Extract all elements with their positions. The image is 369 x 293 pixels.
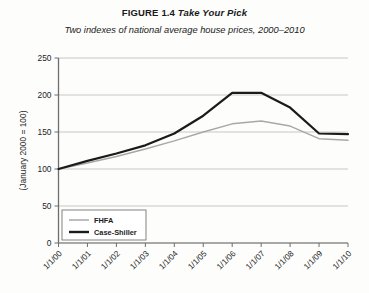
x-tick-label: 1/1/03 bbox=[128, 249, 151, 272]
x-tick-label: 1/1/00 bbox=[41, 249, 64, 272]
x-tick-label: 1/1/07 bbox=[244, 249, 267, 272]
series-line-case-shiller bbox=[59, 93, 349, 169]
line-chart: 050100150200250 1/1/001/1/011/1/021/1/03… bbox=[0, 0, 369, 293]
y-axis-title-text: (January 2000 = 100) bbox=[18, 110, 28, 190]
x-tick-label: 1/1/08 bbox=[273, 249, 296, 272]
series-line-fhfa bbox=[59, 121, 349, 169]
y-tick-label: 250 bbox=[38, 53, 52, 63]
x-tick-label: 1/1/05 bbox=[186, 249, 209, 272]
x-tick-label: 1/1/10 bbox=[331, 249, 354, 272]
chart-series-lines bbox=[59, 93, 349, 169]
y-tick-label: 50 bbox=[42, 201, 52, 211]
y-tick-label: 150 bbox=[38, 127, 52, 137]
chart-legend: FHFACase-Shiller bbox=[62, 210, 146, 240]
chart-y-tick-labels: 050100150200250 bbox=[38, 53, 59, 248]
x-tick-label: 1/1/01 bbox=[70, 249, 93, 272]
y-tick-label: 0 bbox=[47, 238, 52, 248]
y-tick-label: 200 bbox=[38, 90, 52, 100]
legend-label-case-shiller: Case-Shiller bbox=[94, 228, 137, 237]
y-tick-label: 100 bbox=[38, 164, 52, 174]
x-tick-label: 1/1/02 bbox=[99, 249, 122, 272]
legend-label-fhfa: FHFA bbox=[94, 216, 114, 225]
chart-y-axis-title: (January 2000 = 100) bbox=[18, 110, 28, 190]
x-tick-label: 1/1/09 bbox=[302, 249, 325, 272]
x-tick-label: 1/1/04 bbox=[157, 249, 180, 272]
x-tick-label: 1/1/06 bbox=[215, 249, 238, 272]
figure-container: FIGURE 1.4 Take Your Pick Two indexes of… bbox=[0, 0, 369, 293]
chart-x-tick-labels: 1/1/001/1/011/1/021/1/031/1/041/1/051/1/… bbox=[41, 243, 353, 272]
